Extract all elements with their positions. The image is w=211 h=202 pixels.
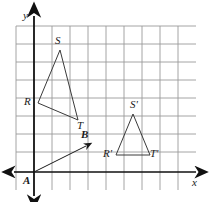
vector-ab xyxy=(34,146,86,172)
point-label-t: T xyxy=(77,120,83,131)
figure-canvas: y x A B R S T R' S' T' xyxy=(0,0,211,202)
axis-label-x: x xyxy=(192,177,197,188)
point-label-r-prime: R' xyxy=(103,148,112,159)
grid-lines xyxy=(16,26,196,190)
point-label-s-prime: S' xyxy=(130,99,138,110)
axis-label-y: y xyxy=(23,10,28,21)
triangle-rst xyxy=(38,50,78,120)
point-label-r: R xyxy=(24,96,31,107)
point-label-t-prime: T' xyxy=(150,148,158,159)
point-label-a: A xyxy=(23,175,30,186)
geometry-svg xyxy=(0,0,211,202)
triangle-rst-prime xyxy=(116,114,150,155)
point-label-s: S xyxy=(55,35,61,46)
